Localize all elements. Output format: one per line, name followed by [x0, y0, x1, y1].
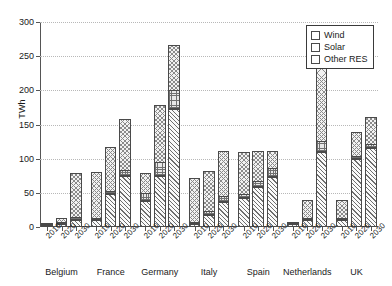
bar-segment-other — [336, 200, 348, 219]
bar-segment-other — [302, 200, 314, 219]
y-tick-mark — [36, 159, 40, 160]
bar-segment-wind — [316, 152, 328, 227]
bar-segment-wind — [154, 176, 166, 227]
gridline — [40, 22, 378, 23]
bar-segment-wind — [140, 201, 152, 227]
bar-segment-other — [238, 152, 250, 194]
legend-label: Wind — [324, 31, 345, 40]
legend-item-solar[interactable]: Solar — [311, 41, 368, 53]
y-tick-label: 300 — [8, 17, 34, 27]
bar-segment-solar — [252, 181, 264, 188]
bar-segment-other — [91, 172, 103, 219]
y-tick-label: 0 — [8, 222, 34, 232]
bar-segment-other — [203, 171, 215, 212]
bar-segment-other — [267, 151, 279, 168]
bar-segment-other — [218, 151, 230, 197]
y-tick-mark — [36, 193, 40, 194]
bar-segment-wind — [168, 109, 180, 227]
bar-segment-solar — [267, 168, 279, 178]
legend-item-other-res[interactable]: Other RES — [311, 53, 368, 65]
x-group-label-germany: Germany — [141, 267, 178, 277]
legend-swatch-icon — [311, 31, 320, 40]
bar-segment-other — [105, 147, 117, 191]
y-tick-mark — [36, 22, 40, 23]
y-tick-label: 100 — [8, 154, 34, 164]
bar-segment-solar — [218, 196, 230, 203]
legend-label: Other RES — [324, 55, 368, 64]
x-group-label-italy: Italy — [201, 267, 218, 277]
legend-swatch-icon — [311, 55, 320, 64]
bar-spain-2030[interactable] — [267, 152, 279, 227]
legend-label: Solar — [324, 43, 345, 52]
y-tick-mark — [36, 125, 40, 126]
bar-germany-2030[interactable] — [168, 46, 180, 227]
x-group-label-uk: UK — [350, 267, 363, 277]
bar-segment-other — [252, 151, 264, 181]
bar-segment-other — [365, 117, 377, 144]
bar-italy-2030[interactable] — [218, 152, 230, 227]
bar-segment-solar — [316, 141, 328, 152]
bar-belgium-2030[interactable] — [70, 174, 82, 227]
bar-segment-other — [189, 178, 201, 222]
bar-uk-2030[interactable] — [365, 118, 377, 227]
bar-spain-2010[interactable] — [238, 153, 250, 227]
bar-segment-solar — [140, 193, 152, 201]
bar-uk-2020[interactable] — [351, 133, 363, 227]
y-tick-label: 150 — [8, 120, 34, 130]
y-tick-mark — [36, 90, 40, 91]
bar-segment-wind — [365, 148, 377, 227]
bar-italy-2010[interactable] — [189, 179, 201, 227]
x-group-label-spain: Spain — [247, 267, 270, 277]
y-tick-mark — [36, 56, 40, 57]
bar-uk-2010[interactable] — [336, 201, 348, 227]
x-group-label-france: France — [97, 267, 125, 277]
bar-germany-2010[interactable] — [140, 174, 152, 227]
chart-legend: WindSolarOther RES — [306, 25, 374, 69]
x-group-label-belgium: Belgium — [45, 267, 78, 277]
stacked-bar-chart: TWh 050100150200250300 20102020203020102… — [0, 0, 392, 286]
x-group-label-netherlands: Netherlands — [283, 267, 332, 277]
bar-segment-other — [154, 105, 166, 163]
bar-spain-2020[interactable] — [252, 152, 264, 227]
bar-france-2020[interactable] — [105, 148, 117, 227]
bar-segment-other — [119, 119, 131, 171]
bar-italy-2020[interactable] — [203, 172, 215, 227]
bar-segment-solar — [168, 90, 180, 109]
bar-segment-other — [140, 173, 152, 194]
y-tick-label: 50 — [8, 188, 34, 198]
bar-segment-wind — [238, 198, 250, 227]
bar-segment-wind — [119, 176, 131, 227]
bar-france-2030[interactable] — [119, 120, 131, 227]
legend-swatch-icon — [311, 43, 320, 52]
bar-segment-other — [70, 173, 82, 217]
y-tick-label: 200 — [8, 85, 34, 95]
bar-segment-wind — [267, 177, 279, 227]
bar-segment-other — [168, 45, 180, 91]
bar-germany-2020[interactable] — [154, 106, 166, 227]
bar-france-2010[interactable] — [91, 173, 103, 227]
y-tick-label: 250 — [8, 51, 34, 61]
legend-item-wind[interactable]: Wind — [311, 29, 368, 41]
bar-segment-other — [351, 132, 363, 157]
bar-segment-wind — [351, 159, 363, 227]
y-tick-mark — [36, 227, 40, 228]
bar-segment-solar — [154, 162, 166, 176]
